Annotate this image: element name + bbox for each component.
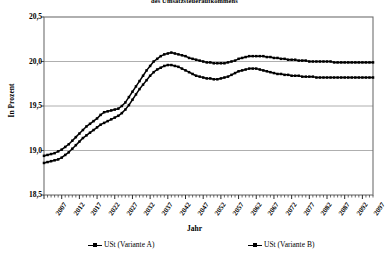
y-axis-tick: 19,0: [16, 147, 42, 155]
y-axis-tick: 20,5: [16, 13, 42, 21]
legend-marker-icon: [88, 242, 102, 249]
chart-legend: USt (Variante A) USt (Variante B): [0, 238, 389, 252]
y-axis-tick: 18,5: [16, 191, 42, 199]
y-axis-tick: 20,0: [16, 58, 42, 66]
plot-area: [0, 0, 389, 258]
y-axis-tick-labels: 18,519,019,520,020,5: [14, 0, 42, 258]
y-axis-tick: 19,5: [16, 102, 42, 110]
legend-item-variante-b[interactable]: USt (Variante B): [248, 240, 314, 250]
chart-container: des Umsatzsteueraufkommens In Prozent 18…: [0, 0, 389, 258]
legend-marker-icon: [248, 242, 262, 249]
legend-item-variante-a[interactable]: USt (Variante A): [88, 240, 154, 250]
x-axis-label: Jahr: [0, 224, 389, 233]
chart-title: des Umsatzsteueraufkommens: [0, 0, 389, 4]
legend-label: USt (Variante A): [104, 240, 154, 249]
legend-label: USt (Variante B): [264, 240, 314, 249]
